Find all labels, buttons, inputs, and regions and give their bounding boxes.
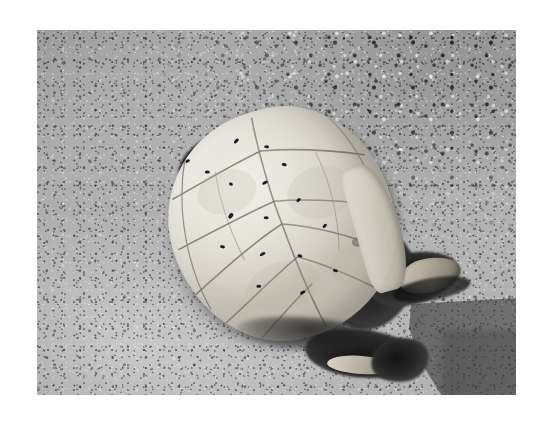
- fly: [333, 269, 339, 273]
- fly: [296, 197, 302, 202]
- turtle: [37, 30, 516, 395]
- fly: [299, 290, 306, 296]
- fly: [229, 182, 234, 186]
- fly: [282, 163, 287, 167]
- fly: [256, 285, 261, 288]
- fly: [220, 245, 226, 249]
- fly: [262, 180, 269, 185]
- photo-border-left: [0, 0, 37, 426]
- fly: [205, 170, 210, 173]
- photo-border-top: [0, 0, 552, 30]
- photograph-page: [0, 0, 552, 426]
- fly: [297, 254, 303, 258]
- fly: [322, 223, 328, 229]
- photo-border-bottom: [0, 395, 552, 426]
- fly: [227, 212, 234, 219]
- fly: [259, 251, 266, 256]
- photo-border-right: [516, 0, 552, 426]
- photograph: [37, 30, 516, 395]
- fly: [264, 216, 269, 219]
- fly: [185, 158, 191, 163]
- fly: [264, 145, 269, 148]
- fly: [233, 138, 239, 144]
